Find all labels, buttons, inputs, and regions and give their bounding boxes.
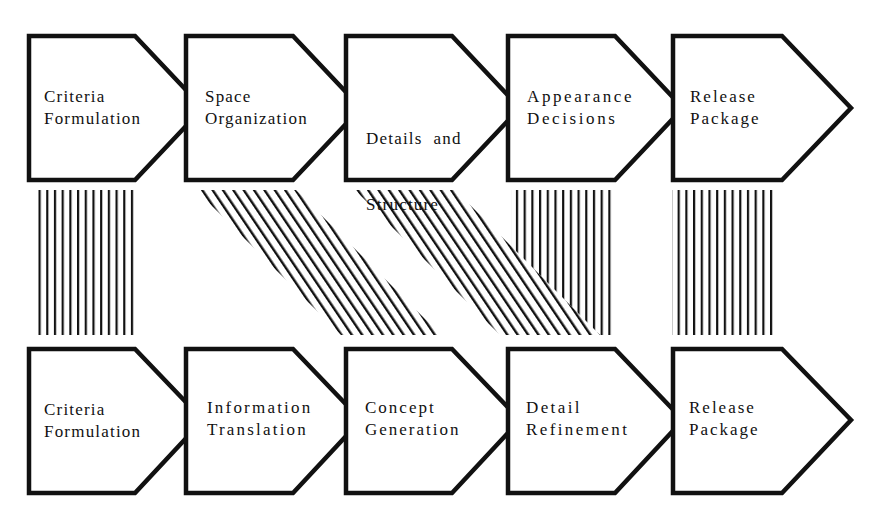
label-line-2: Package — [689, 419, 760, 441]
label-line-2: Generation — [365, 419, 461, 441]
label-line-1: Criteria — [44, 86, 141, 108]
bottom-step-3-label: Concept Generation — [365, 397, 461, 441]
label-line-1: Information — [207, 397, 312, 419]
top-step-4-label: Appearance Decisions — [527, 86, 634, 130]
bottom-step-1-label: Criteria Formulation — [44, 399, 141, 443]
label-line-1: Release — [689, 397, 760, 419]
label-line-2: Formulation — [44, 108, 141, 130]
label-line-2: Formulation — [44, 421, 141, 443]
bottom-step-5-label: Release Package — [689, 397, 760, 441]
label-line-2: Decisions — [527, 108, 634, 130]
top-step-3-label: Details and Structure — [366, 84, 462, 260]
bottom-step-4-label: Detail Refinement — [526, 397, 629, 441]
label-line-1: Detail — [526, 397, 629, 419]
label-line-1: Details and — [366, 128, 462, 150]
label-line-2: Refinement — [526, 419, 629, 441]
label-line-1: Concept — [365, 397, 461, 419]
label-line-1: Appearance — [527, 86, 634, 108]
label-line-1: Release — [690, 86, 761, 108]
label-line-2: Translation — [207, 419, 312, 441]
process-mapping-diagram: Criteria Formulation Space Organization … — [0, 0, 880, 526]
label-line-2: Structure — [366, 194, 462, 216]
label-line-2: Package — [690, 108, 761, 130]
top-step-5-label: Release Package — [690, 86, 761, 130]
bottom-step-2-label: Information Translation — [207, 397, 312, 441]
diagram-canvas — [0, 0, 880, 526]
label-line-1: Space — [205, 86, 308, 108]
label-line-1: Criteria — [44, 399, 141, 421]
top-step-2-label: Space Organization — [205, 86, 308, 130]
connection-vertical-5 — [672, 190, 774, 335]
connection-vertical-1 — [35, 190, 136, 335]
top-step-1-label: Criteria Formulation — [44, 86, 141, 130]
label-line-2: Organization — [205, 108, 308, 130]
